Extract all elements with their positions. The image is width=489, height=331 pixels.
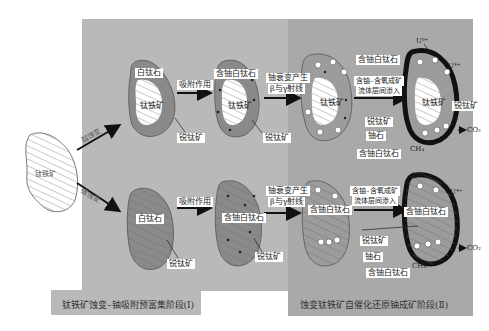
r1-s1-pointer: 锐钛矿 <box>177 133 205 143</box>
source-label: 钛铁矿 <box>35 168 56 178</box>
r1-s2-pointer: 锐钛矿 <box>263 133 291 143</box>
r2-arrow1: 吸附作用 <box>177 197 213 207</box>
r2-arrow3-l2: 流体层间渗入 <box>352 196 398 206</box>
r2-s4-outer: 含铀白钛石 <box>404 207 448 217</box>
r1-s4-bottom1: 铀石 <box>366 131 386 141</box>
r1-s4-co2: CO₂ <box>467 126 481 134</box>
r2-arrow2-l2: β与γ射线 <box>268 197 305 207</box>
r2-s4-ch4: CH₄ <box>412 262 426 270</box>
r1-arrow2-l1: 铀衰变产生 <box>266 73 310 83</box>
r1-arrow3-l2: 流体层间渗入 <box>356 86 402 96</box>
r1-arrow2-l2: β与γ射线 <box>268 84 305 94</box>
r1-s2-outer: 含铀白钛石 <box>214 69 258 79</box>
r2-s4-u4: U⁴⁺ <box>450 188 462 196</box>
phase2-caption: 蚀变钛铁矿自催化还原铀成矿阶段(Ⅱ) <box>300 298 448 311</box>
r1-s4-right: 锐钛矿 <box>452 101 480 111</box>
r1-s1-core: 钛铁矿 <box>138 101 166 111</box>
r1-s4-ch4: CH₄ <box>410 145 424 153</box>
r1-s4-u6: U⁶⁺ <box>416 37 428 45</box>
r2-s4-pointer: 锐钛矿 <box>360 236 388 246</box>
r2-s2-outer: 含铀白钛石 <box>222 213 266 223</box>
r1-arrow1: 吸附作用 <box>177 80 213 90</box>
r1-arrow3-l1: 含铀–含氧成矿 <box>354 76 404 86</box>
r2-s4-co2: CO₂ <box>467 244 481 252</box>
r1-s4-core: 钛铁矿 <box>420 98 448 108</box>
phase1-caption: 钛铁矿蚀变–铀吸附预富集阶段(Ⅰ) <box>62 298 194 311</box>
r2-s3-outer: 含铀白钛石 <box>308 205 352 215</box>
r2-arrow2-l1: 铀衰变产生 <box>266 186 310 196</box>
r2-s1-pointer: 锐钛矿 <box>167 259 195 269</box>
r2-s4-bottom2: 含铀白钛石 <box>366 268 410 278</box>
r2-s2-pointer: 锐钛矿 <box>255 252 283 262</box>
r1-s4-u4: U⁴⁺ <box>448 62 460 70</box>
r1-s3-pointer: 锐钛矿 <box>365 117 393 127</box>
r1-s3-core: 钛铁矿 <box>318 98 346 108</box>
r2-s4-u6: U⁶⁺ <box>412 171 424 179</box>
r2-s1-outer: 白钛石 <box>136 214 164 224</box>
r2-s4-bottom1: 铀石 <box>363 252 383 262</box>
r1-s1-outer: 白钛石 <box>135 68 163 78</box>
r1-s3-label-top: 含铀白钛石 <box>356 55 400 65</box>
r1-s2-core: 钛铁矿 <box>226 101 254 111</box>
r1-s4-bottom2: 含铀白钛石 <box>357 149 401 159</box>
r2-arrow3-l1: 含铀–含氧成矿 <box>350 186 400 196</box>
diagram-graphics <box>0 0 489 331</box>
